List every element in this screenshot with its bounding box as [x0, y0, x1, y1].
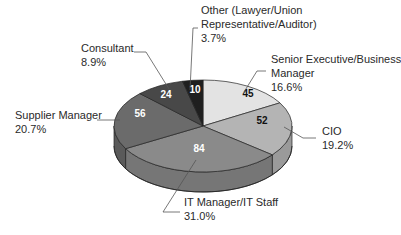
callout-other-lawyer-union-representative-auditor: Other (Lawyer/UnionRepresentative/Audito… [201, 4, 317, 44]
slice-value-senior-executive-business-manager: 45 [242, 88, 254, 99]
callout-percent: 3.7% [201, 32, 226, 44]
callout-percent: 8.9% [81, 56, 106, 68]
slice-value-it-manager-it-staff: 84 [193, 143, 205, 154]
callout-name: Consultant [81, 42, 134, 54]
pie-top-faces [114, 80, 292, 172]
callout-name: Manager [271, 67, 315, 79]
callout-name: CIO [322, 125, 342, 137]
slice-value-supplier-manager: 56 [134, 108, 146, 119]
callout-name: IT Manager/IT Staff [184, 196, 279, 208]
callout-it-manager-it-staff: IT Manager/IT Staff31.0% [184, 196, 279, 222]
callout-name: Other (Lawyer/Union [201, 4, 303, 16]
slice-value-other-lawyer-union-representative-auditor: 10 [189, 84, 201, 95]
callout-percent: 20.7% [15, 123, 46, 135]
callout-cio: CIO19.2% [322, 125, 353, 151]
slice-value-cio: 52 [256, 115, 268, 126]
callout-name: Supplier Manager [15, 109, 102, 121]
pie-chart: 455284562410 Senior Executive/BusinessMa… [0, 0, 401, 235]
callout-name: Representative/Auditor) [201, 18, 317, 30]
leader-line-consultant [134, 52, 169, 89]
callout-percent: 19.2% [322, 139, 353, 151]
callout-percent: 16.6% [271, 81, 302, 93]
callout-name: Senior Executive/Business [271, 53, 401, 65]
callout-senior-executive-business-manager: Senior Executive/BusinessManager16.6% [271, 53, 401, 93]
callout-consultant: Consultant8.9% [81, 42, 134, 68]
slice-value-consultant: 24 [160, 89, 172, 100]
callout-percent: 31.0% [184, 210, 215, 222]
callout-supplier-manager: Supplier Manager20.7% [15, 109, 102, 135]
